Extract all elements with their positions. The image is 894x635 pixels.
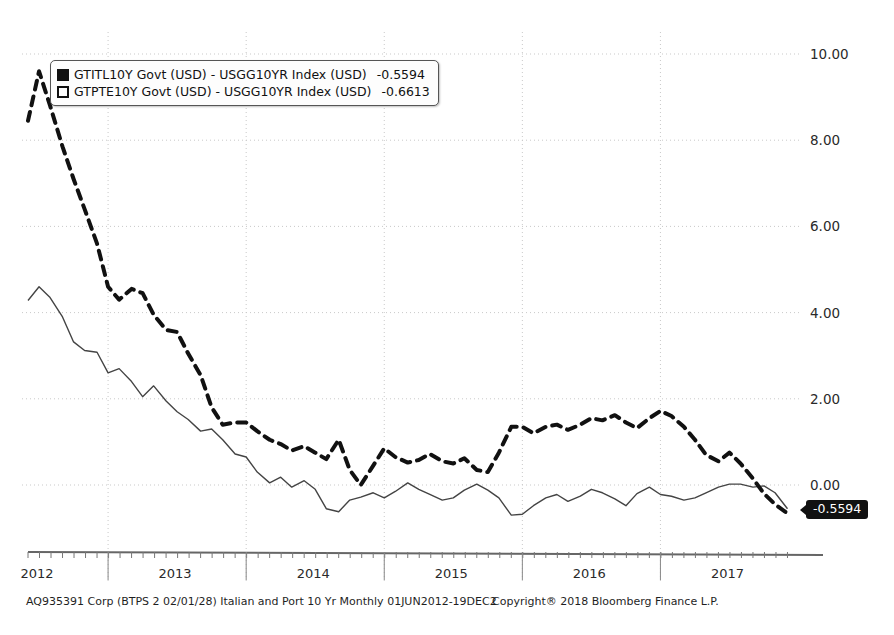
series-lines — [28, 71, 787, 515]
y-axis-tick-label: 0.00 — [810, 477, 840, 493]
x-axis-tick-label: 2016 — [573, 566, 606, 581]
series-line[interactable] — [28, 71, 787, 513]
x-axis-tick-label: 2015 — [435, 566, 468, 581]
vertical-gridlines — [0, 32, 660, 582]
footer-left-text: AQ935391 Corp (BTPS 2 02/01/28) Italian … — [26, 595, 497, 608]
x-axis-tick-label: 2017 — [711, 566, 744, 581]
y-axis-tick-label: 10.00 — [810, 46, 849, 62]
last-value-callout-badge: -0.5594 — [806, 500, 868, 519]
x-axis-baseline — [28, 552, 823, 555]
x-axis-tick-label: 2014 — [297, 566, 330, 581]
legend-series-label: GTITL10Y Govt (USD) - USGG10YR Index (US… — [74, 66, 367, 83]
legend-series-value: -0.5594 — [377, 66, 425, 83]
y-axis-tick-label: 4.00 — [810, 305, 840, 321]
x-axis-tick-label: 2012 — [20, 566, 53, 581]
y-axis-tick-labels: 10.008.006.004.002.000.00 — [810, 46, 849, 493]
chart-legend[interactable]: GTITL10Y Govt (USD) - USGG10YR Index (US… — [50, 60, 439, 106]
legend-row[interactable]: GTPTE10Y Govt (USD) - USGG10YR Index (US… — [57, 83, 430, 100]
series-line[interactable] — [28, 287, 787, 515]
horizontal-gridlines — [22, 54, 800, 485]
filled-square-icon — [57, 69, 69, 81]
footer-right-text: Copyright® 2018 Bloomberg Finance L.P. — [492, 595, 719, 608]
y-axis-tick-label: 8.00 — [810, 132, 840, 148]
dashed-square-icon — [57, 86, 69, 98]
bloomberg-chart: 10.008.006.004.002.000.00 20122013201420… — [0, 0, 894, 635]
legend-series-label: GTPTE10Y Govt (USD) - USGG10YR Index (US… — [74, 83, 372, 100]
y-axis-tick-label: 2.00 — [810, 391, 840, 407]
x-axis-tick-labels: 201220132014201520162017 — [20, 566, 744, 581]
x-axis-line — [0, 552, 823, 580]
y-axis-tick-label: 6.00 — [810, 218, 840, 234]
legend-row[interactable]: GTITL10Y Govt (USD) - USGG10YR Index (US… — [57, 66, 430, 83]
x-axis-tick-label: 2013 — [159, 566, 192, 581]
legend-series-value: -0.6613 — [382, 83, 430, 100]
